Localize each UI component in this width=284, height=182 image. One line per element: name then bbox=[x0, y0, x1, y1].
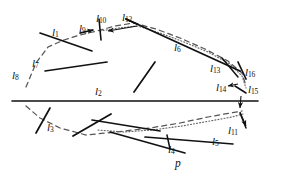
label-l1: l1 bbox=[52, 27, 59, 39]
arrow-l15 bbox=[240, 96, 241, 108]
label-l15: l15 bbox=[248, 84, 258, 96]
label-l10-subscript: 10 bbox=[99, 16, 106, 25]
label-l10: l10 bbox=[96, 13, 106, 25]
label-l9-subscript: 9 bbox=[82, 26, 86, 35]
label-p-base: p bbox=[175, 157, 181, 169]
label-l16: l16 bbox=[245, 67, 255, 79]
line-l12-top bbox=[126, 19, 240, 71]
label-l1-subscript: 1 bbox=[55, 30, 59, 39]
line-l15 bbox=[235, 86, 246, 93]
label-l13-subscript: 13 bbox=[213, 66, 220, 75]
label-l16-subscript: 16 bbox=[248, 70, 255, 79]
label-l12: l12 bbox=[122, 12, 132, 24]
arrow-group bbox=[80, 26, 246, 126]
label-l6: l6 bbox=[174, 42, 181, 54]
arrow-l14 bbox=[228, 84, 238, 86]
label-l11-subscript: 11 bbox=[231, 128, 238, 137]
label-l5-subscript: 5 bbox=[215, 139, 219, 148]
label-l8-subscript: 8 bbox=[15, 73, 19, 82]
line-cross-a bbox=[73, 114, 111, 136]
label-l4-subscript: 4 bbox=[171, 147, 175, 156]
label-l9: l9 bbox=[79, 23, 86, 35]
label-l14: l14 bbox=[216, 82, 226, 94]
label-l8: l8 bbox=[12, 70, 19, 82]
label-l3: l3 bbox=[47, 122, 54, 134]
label-l7: l7 bbox=[32, 58, 39, 70]
lower-dotted-boundary bbox=[98, 114, 243, 132]
label-l14-subscript: 14 bbox=[219, 85, 226, 94]
line-l1 bbox=[40, 33, 92, 51]
line-l7 bbox=[45, 62, 107, 71]
diagram-svg bbox=[0, 0, 284, 182]
line-middle bbox=[134, 62, 155, 92]
label-l11: l11 bbox=[228, 125, 238, 137]
label-l2-subscript: 2 bbox=[98, 89, 102, 98]
line-l5 bbox=[145, 137, 233, 144]
figure-canvas: l1l2l3l4l5l6l7l8l9l10l11l12l13l14l15l16p bbox=[0, 0, 284, 182]
label-l3-subscript: 3 bbox=[50, 125, 54, 134]
label-p: p bbox=[175, 158, 181, 170]
label-l13: l13 bbox=[210, 63, 220, 75]
label-l2: l2 bbox=[95, 86, 102, 98]
label-l6-subscript: 6 bbox=[177, 45, 181, 54]
line-cross-b bbox=[92, 120, 160, 131]
dotted-boundary-group bbox=[98, 26, 246, 132]
label-l7-subscript: 7 bbox=[35, 61, 39, 70]
label-l12-subscript: 12 bbox=[125, 15, 132, 24]
label-l5: l5 bbox=[212, 136, 219, 148]
label-l15-subscript: 15 bbox=[251, 87, 258, 96]
label-l4: l4 bbox=[168, 144, 175, 156]
